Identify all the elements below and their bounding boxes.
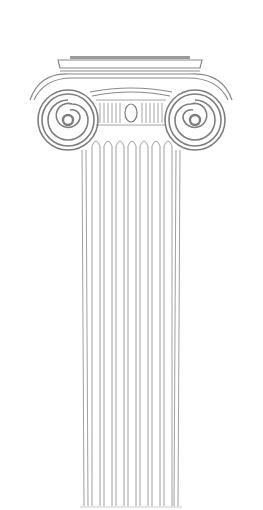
column-shaft <box>82 141 180 506</box>
ionic-column-illustration <box>0 0 263 510</box>
volute-band <box>30 74 232 100</box>
abacus <box>58 56 202 71</box>
left-volute <box>38 90 98 150</box>
right-volute <box>165 90 225 150</box>
egg-and-dart <box>96 100 166 125</box>
